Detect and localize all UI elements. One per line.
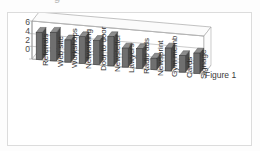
x-axis-category-label: Newsprint: [157, 40, 165, 76]
x-axis-category-label: Newsletter: [114, 34, 122, 72]
x-axis-category-label: Door to door: [100, 26, 108, 70]
clipped-title-text: g: [54, 0, 61, 3]
x-axis-category-label: Workshops: [71, 28, 79, 68]
x-axis-category-label: Networking: [85, 29, 93, 69]
bar-chart: 6 4 2 0 ReferralsWeb siteWorkshopsNetwor…: [8, 13, 251, 145]
x-axis-category-label: Web site: [57, 36, 65, 67]
x-axis-category-label: Gym memb: [171, 36, 179, 77]
clipped-title: g: [0, 0, 260, 11]
figure-container: g 6 4 2 0 ReferralsWeb siteWorkshopsNetw…: [0, 0, 260, 151]
x-axis-category-label: Lawyers: [128, 43, 136, 73]
x-axis-category-label: Radio ads: [143, 38, 151, 74]
x-axis-category-label: Referrals: [42, 33, 50, 65]
figure-annotation: Figure 1: [205, 70, 236, 80]
x-axis-category-label: Cards: [186, 57, 194, 78]
